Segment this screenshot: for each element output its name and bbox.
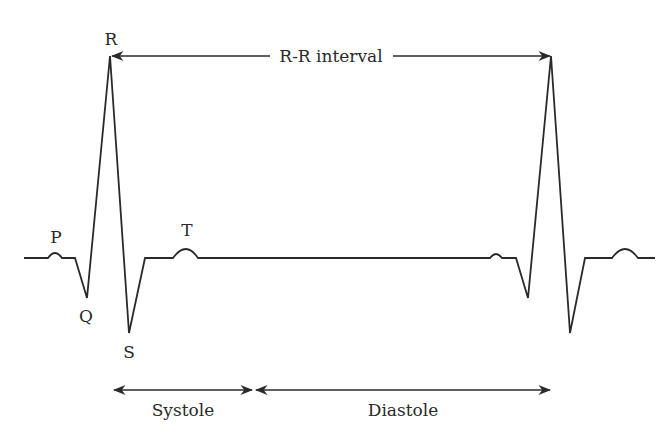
ecg-diagram: R-R interval R P Q S T Systole Diastole bbox=[0, 0, 671, 443]
label-q: Q bbox=[79, 306, 93, 326]
label-t: T bbox=[181, 220, 193, 240]
label-p: P bbox=[50, 227, 61, 247]
label-s: S bbox=[123, 342, 135, 362]
label-r: R bbox=[105, 29, 119, 49]
ecg-svg: R-R interval R P Q S T Systole Diastole bbox=[0, 0, 671, 443]
diastole-label: Diastole bbox=[368, 400, 439, 420]
systole-label: Systole bbox=[152, 400, 215, 420]
ecg-trace bbox=[24, 56, 655, 333]
rr-interval-label: R-R interval bbox=[279, 46, 382, 66]
